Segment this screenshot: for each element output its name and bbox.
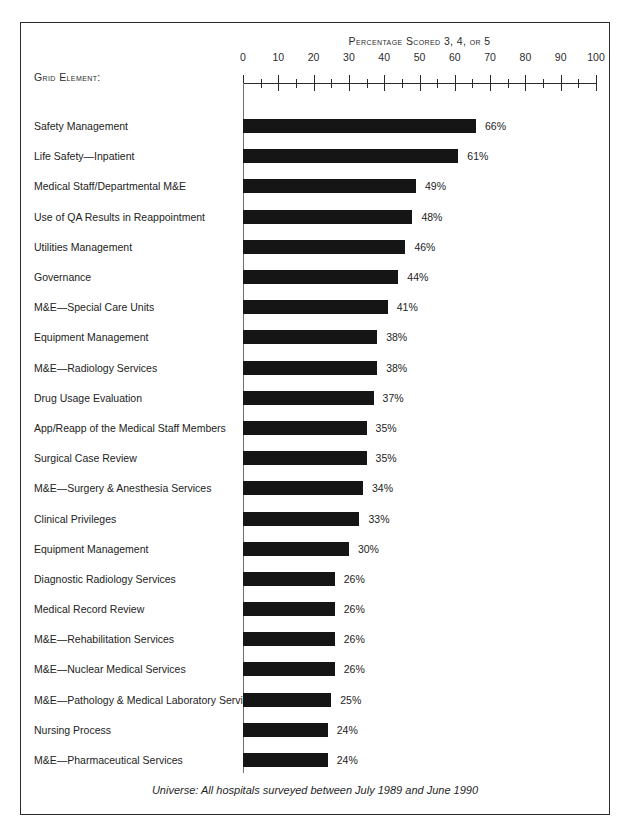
bar-row: Nursing Process24% (21, 715, 609, 745)
bar-category-label: Surgical Case Review (34, 452, 137, 464)
x-axis-tick-major (490, 75, 491, 91)
bar-row: Drug Usage Evaluation37% (21, 383, 609, 413)
bar-value-label: 26% (344, 663, 365, 675)
bar (243, 210, 412, 224)
x-axis-tick-major (420, 75, 421, 91)
x-axis-tick-label: 50 (414, 51, 426, 63)
bar (243, 512, 359, 526)
bar-row: Utilities Management46% (21, 232, 609, 262)
bar-row: Medical Staff/Departmental M&E49% (21, 171, 609, 201)
bar-row: Diagnostic Radiology Services26% (21, 564, 609, 594)
x-axis-tick-major (455, 75, 456, 91)
bar-value-label: 49% (425, 180, 446, 192)
bar (243, 300, 388, 314)
bar-category-label: M&E—Nuclear Medical Services (34, 663, 186, 675)
bar-row: M&E—Pharmaceutical Services24% (21, 745, 609, 775)
bar (243, 451, 367, 465)
bar-value-label: 37% (383, 392, 404, 404)
chart-title: Percentage Scored 3, 4, or 5 (243, 35, 596, 47)
x-axis-tick-label: 30 (343, 51, 355, 63)
bar-row: Clinical Privileges33% (21, 503, 609, 533)
bar (243, 421, 367, 435)
bar-chart: Percentage Scored 3, 4, or 5 Grid Elemen… (21, 23, 609, 814)
bar (243, 662, 335, 676)
x-axis-tick-label: 40 (378, 51, 390, 63)
x-axis-tick-minor (472, 79, 473, 88)
x-axis-tick-label: 80 (520, 51, 532, 63)
x-axis-tick-major (349, 75, 350, 91)
bar-rows: Safety Management66%Life Safety—Inpatien… (21, 111, 609, 775)
universe-note: Universe: All hospitals surveyed between… (21, 784, 609, 796)
bar-category-label: Equipment Management (34, 543, 148, 555)
bar-value-label: 35% (376, 452, 397, 464)
x-axis-tick-minor (578, 79, 579, 88)
bar-category-label: Governance (34, 271, 91, 283)
x-axis-tick-minor (261, 79, 262, 88)
bar (243, 240, 405, 254)
x-axis-tick-label: 60 (449, 51, 461, 63)
x-axis-tick-label: 20 (308, 51, 320, 63)
bar-value-label: 61% (467, 150, 488, 162)
bar (243, 481, 363, 495)
x-axis-tick-minor (402, 79, 403, 88)
x-axis-tick-minor (437, 79, 438, 88)
bar-category-label: App/Reapp of the Medical Staff Members (34, 422, 226, 434)
bar (243, 391, 374, 405)
bar (243, 179, 416, 193)
bar-category-label: Medical Staff/Departmental M&E (34, 180, 186, 192)
bar-row: M&E—Pathology & Medical Laboratory Servi… (21, 685, 609, 715)
bar-row: M&E—Rehabilitation Services26% (21, 624, 609, 654)
x-axis-tick-minor (296, 79, 297, 88)
bar-row: Medical Record Review26% (21, 594, 609, 624)
bar-category-label: Nursing Process (34, 724, 111, 736)
bar-row: M&E—Special Care Units41% (21, 292, 609, 322)
bar-row: M&E—Nuclear Medical Services26% (21, 654, 609, 684)
bar (243, 753, 328, 767)
bar-value-label: 34% (372, 482, 393, 494)
x-axis-tick-label: 10 (272, 51, 284, 63)
bar-row: Use of QA Results in Reappointment48% (21, 202, 609, 232)
bar-category-label: M&E—Radiology Services (34, 362, 157, 374)
bar (243, 270, 398, 284)
bar-category-label: Utilities Management (34, 241, 132, 253)
bar-category-label: M&E—Pathology & Medical Laboratory Servi… (34, 694, 259, 706)
x-axis-tick-major (525, 75, 526, 91)
bar-category-label: M&E—Surgery & Anesthesia Services (34, 482, 211, 494)
bar-category-label: Use of QA Results in Reappointment (34, 211, 205, 223)
bar (243, 723, 328, 737)
x-axis-tick-label: 90 (555, 51, 567, 63)
bar-value-label: 26% (344, 633, 365, 645)
bar (243, 119, 476, 133)
bar-value-label: 38% (386, 331, 407, 343)
bar-value-label: 38% (386, 362, 407, 374)
bar (243, 149, 458, 163)
bar-value-label: 24% (337, 724, 358, 736)
bar-value-label: 26% (344, 573, 365, 585)
bar-category-label: M&E—Rehabilitation Services (34, 633, 174, 645)
chart-frame: Percentage Scored 3, 4, or 5 Grid Elemen… (20, 22, 610, 815)
x-axis-tick-major (278, 75, 279, 91)
bar (243, 542, 349, 556)
x-axis-tick-major (596, 75, 597, 91)
x-axis-tick-major (314, 75, 315, 91)
bar-value-label: 25% (340, 694, 361, 706)
x-axis-tick-labels: 0102030405060708090100 (21, 51, 609, 67)
bar-category-label: M&E—Special Care Units (34, 301, 154, 313)
bar (243, 632, 335, 646)
bar-category-label: Drug Usage Evaluation (34, 392, 142, 404)
bar (243, 602, 335, 616)
bar-value-label: 26% (344, 603, 365, 615)
bar-value-label: 30% (358, 543, 379, 555)
bar-category-label: M&E—Pharmaceutical Services (34, 754, 183, 766)
x-axis (21, 75, 609, 89)
x-axis-tick-label: 0 (240, 51, 246, 63)
bar-category-label: Medical Record Review (34, 603, 144, 615)
bar (243, 330, 377, 344)
bar (243, 693, 331, 707)
x-axis-tick-label: 100 (587, 51, 605, 63)
bar-category-label: Clinical Privileges (34, 513, 116, 525)
bar-row: Equipment Management38% (21, 322, 609, 352)
x-axis-tick-major (561, 75, 562, 91)
bar-category-label: Diagnostic Radiology Services (34, 573, 176, 585)
bar-value-label: 24% (337, 754, 358, 766)
